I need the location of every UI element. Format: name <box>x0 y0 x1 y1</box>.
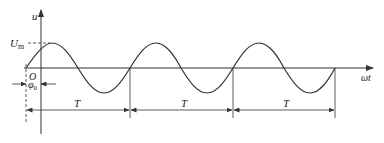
period-label-1: T <box>74 97 81 109</box>
x-axis-label: ωt <box>361 72 371 83</box>
period-label-3: T <box>283 97 290 109</box>
sine-wave-diagram: u ωt Um O φ0 T T T <box>0 0 384 143</box>
y-axis-label: u <box>32 10 38 22</box>
period-label-2: T <box>181 97 188 109</box>
amplitude-label: Um <box>10 37 25 51</box>
